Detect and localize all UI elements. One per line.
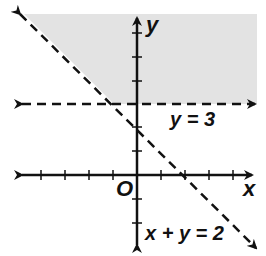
- origin-label: O: [116, 176, 133, 201]
- coordinate-plane: y x O y = 3 x + y = 2: [0, 0, 266, 256]
- line-label-y-equals-3: y = 3: [169, 108, 215, 130]
- line-label-x-plus-y-equals-2: x + y = 2: [144, 222, 224, 244]
- x-axis-label: x: [242, 176, 256, 201]
- y-axis-label: y: [145, 12, 160, 37]
- shaded-solution-region: [24, 14, 257, 104]
